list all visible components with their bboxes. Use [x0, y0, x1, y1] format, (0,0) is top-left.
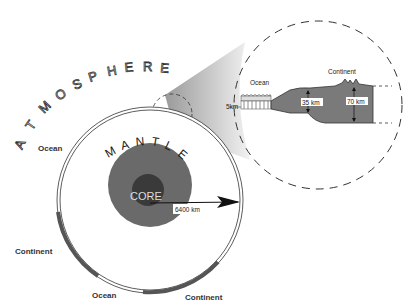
radius-label: 6400 km: [175, 206, 200, 213]
svg-text:O: O: [52, 85, 69, 103]
svg-text:N: N: [135, 134, 145, 149]
svg-text:E: E: [160, 60, 170, 76]
ocean-label-bottom: Ocean: [92, 291, 117, 300]
svg-text:H: H: [106, 63, 118, 79]
svg-text:T: T: [22, 118, 39, 133]
continent-label-bottom: Continent: [185, 293, 223, 302]
svg-text:P: P: [86, 68, 99, 85]
svg-text:A: A: [11, 137, 28, 151]
svg-text:M: M: [36, 98, 54, 116]
continent-thickness-35: 35 km: [302, 99, 320, 106]
core-label: CORE: [130, 190, 162, 202]
svg-text:E: E: [124, 59, 134, 75]
continent-thickness-70: 70 km: [347, 98, 365, 105]
inset-ocean-label: Ocean: [250, 79, 270, 86]
svg-text:S: S: [70, 75, 84, 92]
continent-label-left: Continent: [15, 247, 53, 256]
ocean-crust-thickness: 5km: [226, 103, 238, 110]
inset-continent-label: Continent: [328, 68, 356, 75]
svg-text:R: R: [143, 59, 152, 74]
earth-structure-diagram: CORE 6400 km M A N T L E A T M O S P H E…: [0, 0, 405, 308]
ocean-label-left: Ocean: [38, 144, 63, 153]
